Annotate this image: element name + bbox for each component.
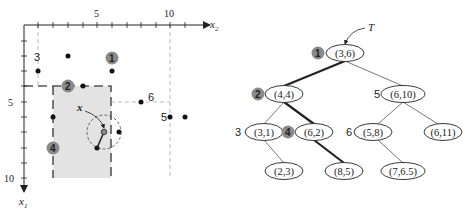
svg-text:2: 2 — [65, 81, 71, 92]
kd-tree: T (3,6) 1 (4,4) 2 (6,10) 5 (3,1) 3 (6,2) — [235, 21, 462, 180]
x1-tick-5: 5 — [8, 97, 13, 108]
point-4-4 — [81, 84, 86, 89]
tree-node-5-8: (5,8) 6 — [346, 124, 392, 141]
x1-axis-label: x1 — [18, 195, 27, 210]
svg-text:(2,3): (2,3) — [274, 166, 295, 178]
point-2-3 — [66, 54, 71, 59]
tree-node-3-1: (3,1) 3 — [235, 124, 283, 141]
tree-node-6-2: (6,2) 4 — [282, 124, 334, 141]
svg-text:(5,8): (5,8) — [363, 127, 384, 139]
svg-text:(3,1): (3,1) — [254, 127, 275, 139]
search-path — [284, 61, 345, 163]
point-5-8 — [139, 100, 144, 105]
query-label: x — [76, 101, 83, 113]
svg-text:(6,11): (6,11) — [431, 127, 456, 139]
svg-text:4: 4 — [50, 143, 56, 154]
svg-text:(3,6): (3,6) — [335, 48, 356, 60]
tree-edges — [264, 61, 438, 163]
tree-node-2-3: (2,3) — [265, 163, 303, 180]
svg-text:6: 6 — [346, 126, 352, 138]
point-3-1 — [36, 69, 41, 74]
svg-text:(6,2): (6,2) — [304, 127, 325, 139]
x2-tick-5: 5 — [94, 8, 99, 19]
tree-node-7-6.5: (7,6.5) — [381, 163, 425, 180]
point-6-2 — [51, 115, 56, 120]
point-3-6 — [110, 69, 115, 74]
query-point — [101, 129, 107, 135]
svg-text:(8,5): (8,5) — [334, 166, 355, 178]
tree-node-6-10: (6,10) 5 — [374, 86, 425, 103]
kd-tree-figure: 5 10 5 10 x2 x1 3 6 5 1 2 — [0, 0, 465, 210]
tree-node-4-4: (4,4) 2 — [252, 86, 304, 103]
tree-node-8-5: (8,5) — [325, 163, 363, 180]
label-5: 5 — [161, 111, 167, 123]
x2-tick-10: 10 — [164, 8, 174, 19]
tree-node-3-6: (3,6) 1 — [312, 45, 365, 62]
badge-1: 1 — [106, 52, 119, 65]
badge-2: 2 — [62, 80, 75, 93]
svg-text:1: 1 — [315, 48, 321, 59]
badge-4: 4 — [47, 142, 60, 155]
scatter-plot: 5 10 5 10 x2 x1 3 6 5 1 2 — [4, 8, 219, 210]
svg-text:1: 1 — [109, 53, 115, 64]
tree-node-6-11: (6,11) — [424, 124, 462, 141]
root-pointer-arrow — [345, 28, 365, 44]
svg-text:(4,4): (4,4) — [274, 89, 295, 101]
label-6: 6 — [148, 91, 154, 103]
label-3: 3 — [34, 51, 40, 63]
root-pointer-label: T — [368, 21, 375, 33]
svg-text:4: 4 — [285, 127, 291, 138]
svg-text:2: 2 — [255, 89, 261, 100]
point-6-10 — [168, 115, 173, 120]
svg-text:(7,6.5): (7,6.5) — [389, 166, 417, 178]
svg-text:5: 5 — [374, 88, 380, 100]
svg-text:3: 3 — [235, 126, 241, 138]
x1-tick-10: 10 — [4, 173, 14, 184]
point-6-11 — [183, 115, 188, 120]
svg-text:(6,10): (6,10) — [390, 89, 416, 101]
x2-axis-label: x2 — [209, 18, 219, 33]
